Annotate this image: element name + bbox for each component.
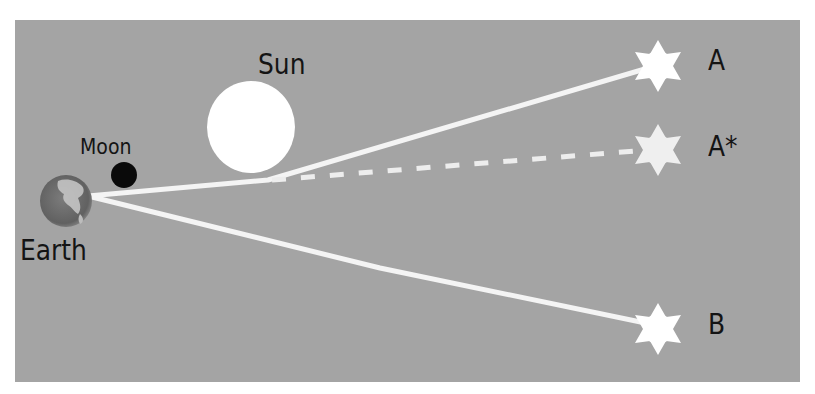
star-a-apparent-label: A* bbox=[708, 132, 738, 161]
sun-label: Sun bbox=[258, 50, 305, 79]
moon-label: Moon bbox=[80, 136, 131, 158]
star-b-label: B bbox=[708, 310, 725, 339]
sun-icon bbox=[207, 81, 295, 173]
earth-label: Earth bbox=[20, 236, 87, 265]
earth-icon bbox=[40, 175, 92, 227]
light-rays bbox=[88, 66, 655, 325]
ray-earth-to-star-a bbox=[88, 66, 655, 196]
ray-earth-to-star-b bbox=[88, 196, 655, 325]
star-a-icon bbox=[635, 40, 681, 92]
star-a-label: A bbox=[708, 46, 725, 75]
star-b-icon bbox=[635, 303, 681, 355]
lensing-diagram bbox=[0, 0, 815, 394]
star-a-apparent-icon bbox=[635, 124, 681, 176]
moon-icon bbox=[111, 162, 137, 188]
ray-apparent-star-a-dashed bbox=[272, 150, 648, 180]
